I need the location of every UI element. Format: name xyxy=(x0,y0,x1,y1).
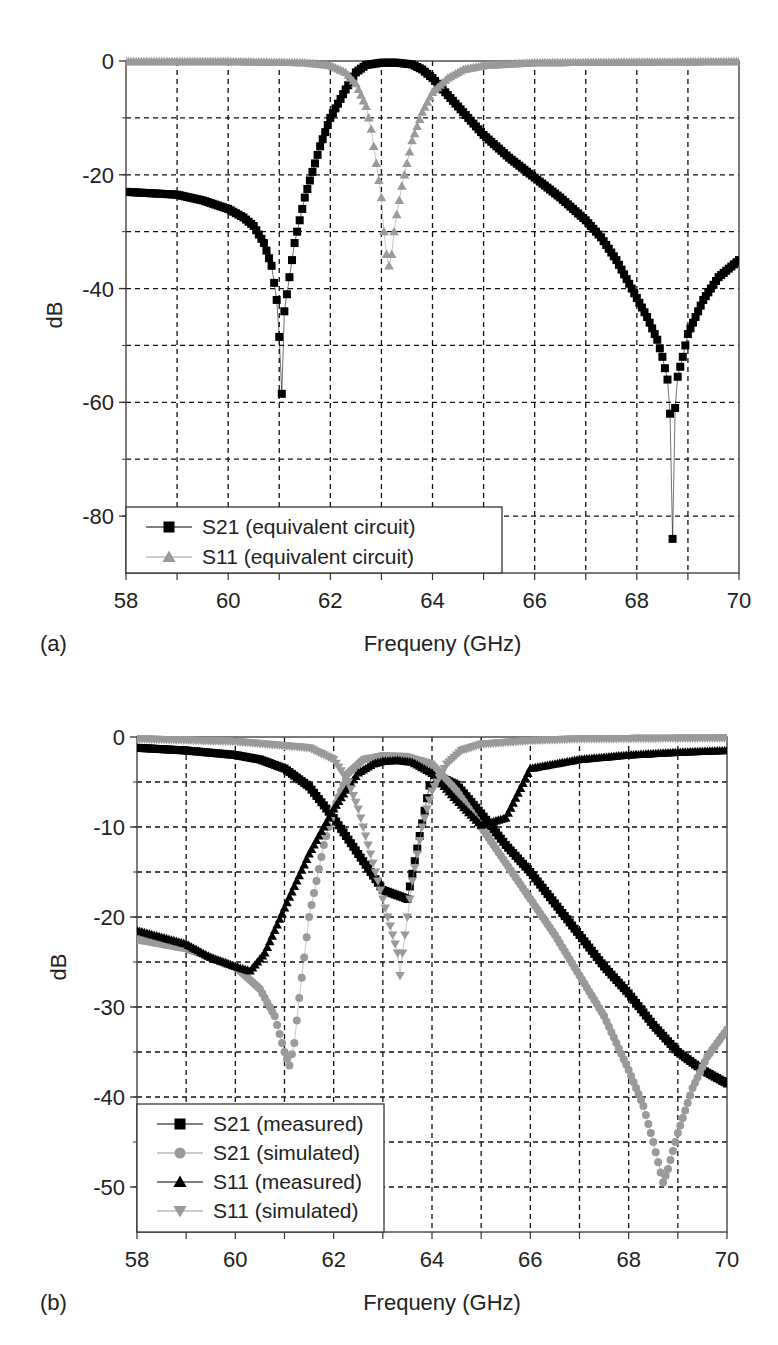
x-tick-label: 62 xyxy=(318,588,342,613)
legend-label: S11 (simulated) xyxy=(213,1199,359,1222)
x-tick-label: 66 xyxy=(522,588,546,613)
x-tick-label: 60 xyxy=(216,588,240,613)
legend-label: S21 (equivalent circuit) xyxy=(202,515,416,538)
y-tick-label: -50 xyxy=(93,1175,125,1200)
panel-label: (b) xyxy=(40,1290,67,1315)
x-tick-label: 58 xyxy=(125,1247,149,1272)
y-tick-label: -80 xyxy=(82,504,114,529)
x-axis-title: Frequeny (GHz) xyxy=(363,1290,521,1315)
figure-b: 0-10-20-30-40-5058606264666870Frequeny (… xyxy=(0,672,778,1345)
x-tick-label: 58 xyxy=(114,588,138,613)
x-tick-label: 70 xyxy=(727,588,751,613)
x-axis-title: Frequeny (GHz) xyxy=(364,631,522,656)
y-tick-label: 0 xyxy=(113,725,125,750)
y-tick-label: -60 xyxy=(82,390,114,415)
x-tick-label: 64 xyxy=(420,588,444,613)
legend: S21 (equivalent circuit)S11 (equivalent … xyxy=(126,507,502,573)
x-tick-label: 60 xyxy=(223,1247,247,1272)
legend: S21 (measured)S21 (simulated)S11 (measur… xyxy=(137,1104,384,1232)
legend-label: S21 (measured) xyxy=(213,1112,364,1135)
y-tick-label: -20 xyxy=(82,163,114,188)
series-s11-measured xyxy=(132,746,732,975)
y-tick-label: -30 xyxy=(93,995,125,1020)
x-tick-label: 66 xyxy=(518,1247,542,1272)
legend-label: S21 (simulated) xyxy=(213,1141,360,1164)
legend-marker-circle-icon xyxy=(175,1148,186,1159)
chart-b-svg: 0-10-20-30-40-5058606264666870Frequeny (… xyxy=(0,672,778,1345)
x-tick-label: 70 xyxy=(715,1247,739,1272)
y-tick-label: -20 xyxy=(93,905,125,930)
figure-a: 0-20-40-60-8058606264666870Frequeny (GHz… xyxy=(0,0,778,672)
chart-a-svg: 0-20-40-60-8058606264666870Frequeny (GHz… xyxy=(0,0,778,672)
y-tick-label: -40 xyxy=(82,277,114,302)
panel-label: (a) xyxy=(40,631,67,656)
legend-marker-square-icon xyxy=(175,1119,186,1130)
y-axis-title: dB xyxy=(46,954,71,981)
y-tick-label: -40 xyxy=(93,1085,125,1110)
y-tick-label: -10 xyxy=(93,815,125,840)
y-axis-title: dB xyxy=(42,302,67,329)
legend-marker-square-icon xyxy=(164,522,175,533)
x-tick-label: 64 xyxy=(420,1247,444,1272)
x-tick-label: 62 xyxy=(321,1247,345,1272)
y-tick-label: 0 xyxy=(102,49,114,74)
x-tick-label: 68 xyxy=(625,588,649,613)
legend-label: S11 (equivalent circuit) xyxy=(202,545,414,568)
x-tick-label: 68 xyxy=(616,1247,640,1272)
legend-label: S11 (measured) xyxy=(213,1170,362,1193)
